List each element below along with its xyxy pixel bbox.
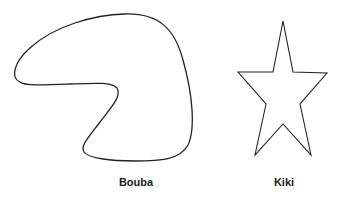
bouba-label: Bouba — [119, 176, 153, 188]
kiki-label: Kiki — [274, 176, 294, 188]
bouba-shape — [15, 14, 193, 161]
diagram-canvas — [0, 0, 342, 199]
kiki-shape — [238, 21, 327, 155]
